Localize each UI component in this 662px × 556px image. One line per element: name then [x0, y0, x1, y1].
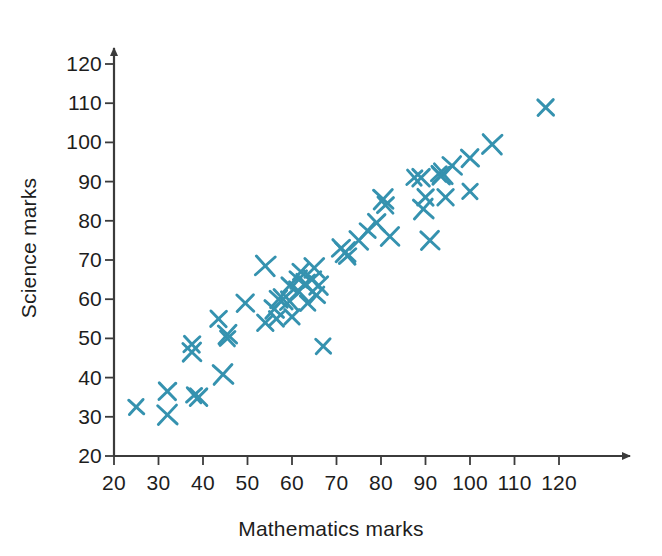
x-axis-tick-label: 20 [102, 472, 126, 493]
data-point-marker [211, 311, 227, 327]
y-axis-tick-label: 40 [40, 367, 102, 388]
y-axis-tick-label: 20 [40, 445, 102, 466]
x-axis-tick-label: 50 [236, 472, 260, 493]
x-axis-tick-label: 60 [280, 472, 304, 493]
data-point-marker [129, 399, 144, 414]
data-point-marker [316, 339, 331, 354]
data-point-marker [158, 405, 177, 424]
data-point-marker [159, 383, 176, 400]
data-point-marker [483, 135, 502, 154]
data-point-marker [213, 365, 233, 385]
data-point-marker [285, 310, 299, 324]
y-axis-tick-label: 30 [40, 406, 102, 427]
y-axis-tick-label: 50 [40, 327, 102, 348]
x-axis-title: Mathematics marks [0, 517, 662, 541]
data-point-group [129, 100, 554, 425]
x-axis-tick-label: 120 [541, 472, 577, 493]
y-axis-ticks [105, 64, 114, 456]
y-axis-tick-label: 100 [40, 131, 102, 152]
data-point-marker [237, 295, 254, 312]
y-axis-tick-label: 70 [40, 249, 102, 270]
y-axis-tick-label: 110 [40, 92, 102, 113]
data-point-marker [218, 325, 236, 343]
data-point-marker [461, 149, 478, 166]
data-point-marker [538, 100, 554, 116]
y-axis-tick-label: 120 [40, 53, 102, 74]
x-axis-tick-label: 100 [452, 472, 488, 493]
plot-area: 2030405060708090100110120 20304050607080… [0, 0, 662, 556]
data-point-marker [269, 311, 284, 326]
x-axis-tick-label: 80 [369, 472, 393, 493]
x-axis-tick-label: 40 [191, 472, 215, 493]
data-point-marker [381, 227, 399, 245]
data-point-marker [421, 231, 439, 249]
y-axis-title: Science marks [17, 153, 41, 343]
data-point-marker [255, 256, 275, 276]
axis-lines [114, 48, 630, 456]
x-axis-tick-label: 110 [497, 472, 531, 493]
x-axis-tick-label: 70 [325, 472, 349, 493]
data-point-marker [438, 190, 454, 206]
x-axis-tick-label: 90 [414, 472, 438, 493]
data-point-marker [463, 184, 478, 199]
y-axis-tick-label: 80 [40, 210, 102, 231]
scatter-plot-figure: 2030405060708090100110120 20304050607080… [0, 0, 662, 556]
x-axis-ticks [114, 456, 559, 465]
y-axis-tick-label: 90 [40, 171, 102, 192]
y-axis-tick-label: 60 [40, 288, 102, 309]
x-axis-tick-label: 30 [147, 472, 171, 493]
data-point-marker [418, 189, 434, 205]
